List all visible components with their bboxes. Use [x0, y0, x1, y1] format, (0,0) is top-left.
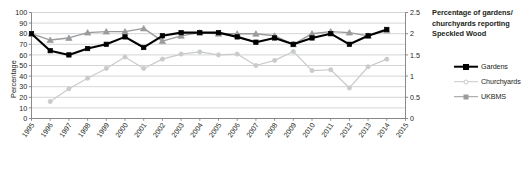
data-point-gardens	[198, 30, 202, 34]
x-axis-tick-label: 2009	[282, 121, 299, 139]
y-axis-left-title: Percentage	[9, 60, 18, 98]
legend-item-churchyards[interactable]: Churchyards	[454, 75, 526, 88]
y-axis-right-tick-label: 2.5	[410, 8, 420, 17]
x-axis-tick-label: 1995	[20, 121, 37, 139]
legend-marker	[464, 94, 469, 99]
x-axis-tick-label: 2003	[169, 121, 186, 139]
legend-marker	[463, 64, 469, 70]
y-axis-left-tick-label: 90	[19, 19, 27, 28]
data-point-gardens	[366, 34, 370, 38]
data-point-gardens	[385, 27, 389, 31]
y-axis-right-tick-label: 1	[410, 72, 414, 81]
x-axis-tick-label: 2007	[244, 121, 261, 139]
chart-figure: 0102030405060708090100 00.511.522.5 1995…	[0, 0, 526, 174]
chart-legend: GardensChurchyardsUKBMS	[454, 60, 526, 105]
plot-area: 0102030405060708090100 00.511.522.5 1995…	[0, 0, 432, 174]
data-point-gardens	[29, 32, 33, 36]
x-axis-tick-label: 2012	[338, 121, 355, 139]
chart-title-line-1: Percentage of gardens/	[432, 8, 513, 17]
data-point-gardens	[160, 34, 164, 38]
gridlines	[32, 13, 406, 119]
x-axis-labels: 1995199619971998199920002001200220032004…	[20, 121, 411, 139]
legend-swatch-ukbms-icon	[454, 91, 478, 102]
data-point-gardens	[254, 40, 258, 44]
data-point-ukbms	[86, 76, 90, 80]
data-point-gardens	[216, 30, 220, 34]
y-axis-right-labels: 00.511.522.5	[410, 8, 420, 123]
chart-title: Percentage of gardens/ churchyards repor…	[432, 8, 524, 40]
data-point-ukbms	[291, 49, 295, 53]
data-point-ukbms	[123, 55, 127, 59]
x-axis-tick-label: 1997	[57, 121, 74, 139]
data-point-ukbms	[142, 66, 146, 70]
data-point-ukbms	[198, 50, 202, 54]
data-point-gardens	[123, 35, 127, 39]
data-point-ukbms	[235, 52, 239, 56]
series-ukbms	[48, 49, 389, 103]
y-axis-left-tick-label: 50	[19, 61, 27, 70]
y-axis-left-tick-label: 60	[19, 51, 27, 60]
data-point-ukbms	[310, 68, 314, 72]
data-point-ukbms	[104, 66, 108, 70]
x-axis-tick-label: 2013	[356, 121, 373, 139]
x-axis-tick-label: 2015	[394, 121, 411, 139]
data-point-gardens	[347, 42, 351, 46]
data-point-gardens	[179, 30, 183, 34]
x-axis-tick-label: 2014	[375, 121, 392, 139]
legend-item-gardens[interactable]: Gardens	[454, 60, 526, 73]
data-point-ukbms	[273, 58, 277, 62]
y-axis-right-tick-label: 1.5	[410, 51, 420, 60]
chart-title-line-3: Speckled Wood	[432, 29, 486, 38]
x-axis-tick-label: 2008	[263, 121, 280, 139]
x-axis-tick-label: 2004	[188, 121, 205, 139]
x-axis-tick-label: 2000	[113, 121, 130, 139]
legend-label: Churchyards	[481, 77, 521, 86]
series-line-ukbms	[50, 52, 387, 102]
data-point-ukbms	[254, 63, 258, 67]
y-axis-right-tick-label: 2	[410, 29, 414, 38]
data-point-ukbms	[160, 57, 164, 61]
y-axis-left-tick-label: 40	[19, 72, 27, 81]
x-axis-tick-label: 2010	[300, 121, 317, 139]
data-point-gardens	[67, 53, 71, 57]
data-point-gardens	[85, 46, 89, 50]
y-axis-left-tick-label: 10	[19, 104, 27, 113]
legend-label: UKBMS	[481, 92, 506, 101]
legend-label: Gardens	[481, 62, 508, 71]
data-point-ukbms	[67, 87, 71, 91]
legend-swatch-gardens-icon	[454, 61, 478, 72]
data-point-ukbms	[385, 57, 389, 61]
x-axis-tick-label: 2005	[207, 121, 224, 139]
x-axis-tick-label: 2001	[132, 121, 149, 139]
y-axis-left-tick-label: 20	[19, 93, 27, 102]
x-axis-tick-label: 2002	[151, 121, 168, 139]
data-point-ukbms	[179, 52, 183, 56]
y-axis-left-tick-label: 0	[23, 114, 27, 123]
x-axis-tick-label: 2006	[225, 121, 242, 139]
x-axis-tick-label: 1998	[76, 121, 93, 139]
y-axis-left-tick-label: 80	[19, 29, 27, 38]
data-point-gardens	[235, 35, 239, 39]
data-point-ukbms	[347, 86, 351, 90]
y-axis-right-tick-label: 0	[410, 114, 414, 123]
data-point-gardens	[104, 42, 108, 46]
data-point-gardens	[48, 48, 52, 52]
legend-swatch-churchyards-icon	[454, 76, 478, 87]
x-axis-tick-label: 1996	[38, 121, 55, 139]
chart-side-panel: UKBMS Index Percentage of gardens/ churc…	[432, 0, 526, 174]
legend-item-ukbms[interactable]: UKBMS	[454, 90, 526, 103]
y-axis-left-tick-label: 100	[15, 8, 27, 17]
data-point-gardens	[329, 32, 333, 36]
data-point-ukbms	[366, 65, 370, 69]
data-point-ukbms	[48, 99, 52, 103]
data-point-ukbms	[329, 68, 333, 72]
chart-canvas: 0102030405060708090100 00.511.522.5 1995…	[0, 0, 432, 174]
y-axis-right-tick-label: 0.5	[410, 93, 420, 102]
x-axis-ticks	[32, 119, 406, 121]
legend-marker	[464, 79, 469, 84]
data-point-gardens	[310, 36, 314, 40]
chart-title-line-2: churchyards reporting	[432, 19, 510, 28]
y-axis-left-tick-label: 70	[19, 40, 27, 49]
data-point-ukbms	[216, 53, 220, 57]
data-point-gardens	[142, 45, 146, 49]
